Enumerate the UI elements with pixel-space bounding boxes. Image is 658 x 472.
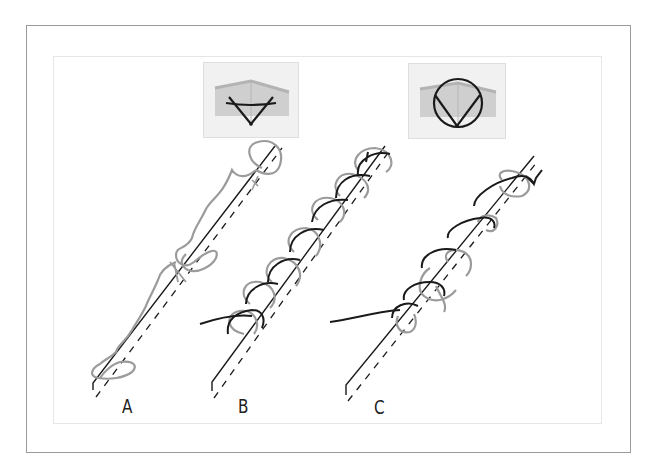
panel-label-b: B bbox=[238, 395, 248, 417]
suture-panel-c bbox=[330, 156, 542, 401]
suture-panel-b bbox=[200, 146, 391, 398]
panel-label-c: C bbox=[374, 396, 385, 418]
suture-diagrams bbox=[0, 0, 658, 472]
suture-panel-a bbox=[92, 141, 282, 397]
panel-label-a: A bbox=[122, 395, 132, 417]
